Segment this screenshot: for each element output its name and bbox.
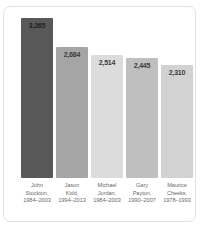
x-label-line-2: Cheeks, bbox=[158, 190, 196, 198]
x-axis-label-john-stockton: John Stockton, 1984–2003 bbox=[18, 182, 56, 205]
bar-value-label: 2,310 bbox=[161, 69, 193, 76]
bar-value-label: 2,684 bbox=[56, 51, 88, 58]
bar-value-label: 3,265 bbox=[21, 22, 53, 29]
bar-group-1: 2,684 bbox=[56, 47, 88, 178]
x-label-line-3: 1990–2007 bbox=[123, 197, 161, 205]
x-label-line-2: Stockton, bbox=[18, 190, 56, 198]
x-label-line-3: 1984–2003 bbox=[18, 197, 56, 205]
bar-group-2: 2,514 bbox=[91, 55, 123, 178]
x-label-line-2: Kidd, bbox=[53, 190, 91, 198]
x-label-line-1: Jason bbox=[53, 182, 91, 190]
x-label-line-1: Maurice bbox=[158, 182, 196, 190]
x-label-line-2: Jordan, bbox=[88, 190, 126, 198]
x-axis-label-maurice-cheeks: Maurice Cheeks, 1978–1993 bbox=[158, 182, 196, 205]
bar-jason-kidd[interactable] bbox=[56, 47, 88, 178]
bar-group-0: 3,265 bbox=[21, 18, 53, 178]
bar-value-label: 2,445 bbox=[126, 62, 158, 69]
x-label-line-3: 1984–2003 bbox=[88, 197, 126, 205]
x-axis-label-gary-payton: Gary Payton, 1990–2007 bbox=[123, 182, 161, 205]
x-label-line-3: 1978–1993 bbox=[158, 197, 196, 205]
bar-group-3: 2,445 bbox=[126, 58, 158, 178]
bar-maurice-cheeks[interactable] bbox=[161, 65, 193, 178]
x-label-line-1: Gary bbox=[123, 182, 161, 190]
bar-value-label: 2,514 bbox=[91, 59, 123, 66]
bar-john-stockton[interactable] bbox=[21, 18, 53, 178]
x-label-line-3: 1994–2013 bbox=[53, 197, 91, 205]
x-label-line-1: Michael bbox=[88, 182, 126, 190]
x-label-line-1: John bbox=[18, 182, 56, 190]
bar-group-4: 2,310 bbox=[161, 65, 193, 178]
bar-gary-payton[interactable] bbox=[126, 58, 158, 178]
x-label-line-2: Payton, bbox=[123, 190, 161, 198]
x-axis-label-michael-jordan: Michael Jordan, 1984–2003 bbox=[88, 182, 126, 205]
bar-michael-jordan[interactable] bbox=[91, 55, 123, 178]
bar-chart: 3,265 2,684 2,514 2,445 2,310 John Stock… bbox=[0, 0, 201, 234]
x-axis-label-jason-kidd: Jason Kidd, 1994–2013 bbox=[53, 182, 91, 205]
